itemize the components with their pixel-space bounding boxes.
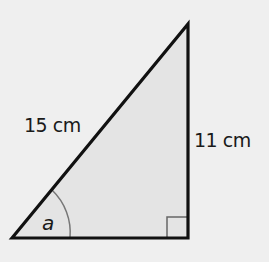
opposite-side-label: 11 cm — [194, 129, 251, 151]
hypotenuse-label: 15 cm — [24, 114, 81, 136]
angle-a-label: a — [42, 211, 54, 235]
